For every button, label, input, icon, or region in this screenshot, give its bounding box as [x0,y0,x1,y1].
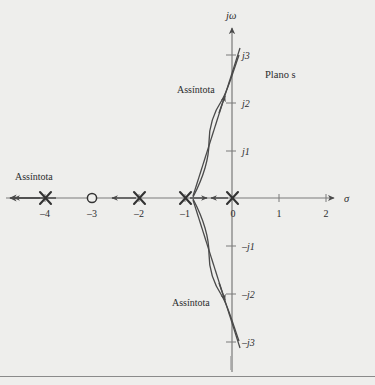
imaginary-axis-label: jω [224,10,236,21]
y-tick-label-minus-j1: –j1 [241,241,255,252]
x-tick-label-minus3: –3 [86,208,97,219]
page-bottom-rule [0,376,375,377]
y-tick-label-minus-j2: –j2 [241,289,255,300]
x-tick-label-minus1: –1 [179,208,190,219]
asymptote-label-upper: Assíntota [177,84,215,95]
root-locus-figure: –4 –3 –2 –1 0 1 2 j3 j2 j1 –j1 –j2 –j3 j… [0,0,375,385]
x-tick-label-minus2: –2 [133,208,144,219]
y-tick-label-j3: j3 [240,50,250,61]
root-locus-svg: –4 –3 –2 –1 0 1 2 j3 j2 j1 –j1 –j2 –j3 j… [0,0,375,385]
label-group: –4 –3 –2 –1 0 1 2 j3 j2 j1 –j1 –j2 –j3 j… [15,10,350,348]
y-tick-label-j1: j1 [240,146,250,157]
real-axis-label: σ [344,193,350,204]
x-tick-label-minus4: –4 [39,208,50,219]
asymptote-upper-line [193,48,240,196]
asymptote-lower-line [193,200,240,348]
asymptote-label-left: Assíntota [15,171,53,182]
x-tick-label-one: 1 [277,208,282,219]
asymptote-label-lower: Assíntota [172,297,210,308]
y-tick-label-j2: j2 [240,98,250,109]
y-tick-label-minus-j3: –j3 [241,337,255,348]
plane-label: Plano s [265,69,296,80]
x-tick-label-two: 2 [324,208,329,219]
page-gutter-tick [230,356,231,370]
zero-marker-minus3 [87,193,96,202]
x-tick-label-zero: 0 [231,208,236,219]
